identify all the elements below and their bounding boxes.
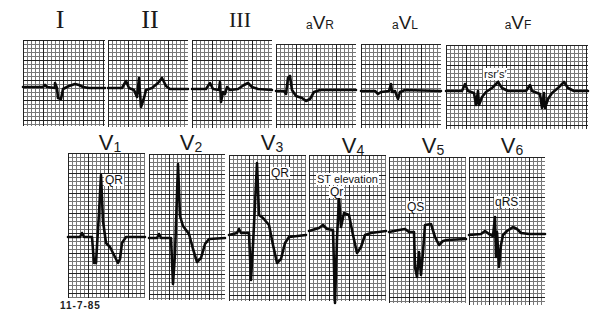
ecg-trace-aVR: [276, 44, 356, 128]
lead-title-V2: V2: [176, 130, 206, 156]
annotation-V6-qRS: qRS: [494, 196, 519, 208]
lead-title-aVL: aVL: [385, 12, 425, 34]
annotation-V4-ST-elevation: ST elevation: [316, 173, 379, 185]
ecg-panel-aVL: [361, 44, 441, 128]
ecg-panel-II: [108, 40, 188, 127]
ecg-trace-I: [23, 40, 105, 126]
annotation-V4-Qr: Qr: [329, 186, 344, 198]
annotation-V5-QS: QS: [406, 201, 425, 213]
ecg-trace-V2: [149, 154, 225, 300]
ecg-trace-V5: [389, 157, 466, 303]
ecg-panel-aVF: [446, 45, 588, 129]
ecg-trace-III: [192, 40, 272, 128]
lead-title-V5: V5: [418, 133, 448, 159]
annotation-rsr-s: rsr′s′: [483, 68, 507, 80]
ecg-panel-aVR: [276, 44, 356, 128]
date-label: 11-7-85: [60, 300, 101, 311]
ecg-trace-V3: [229, 155, 306, 301]
lead-title-III: III: [215, 7, 265, 33]
ecg-panel-V2: [149, 154, 225, 300]
lead-title-I: I: [45, 5, 75, 35]
ecg-panel-III: [192, 40, 272, 128]
ecg-trace-V6: [469, 157, 545, 305]
ecg-panel-V5: [389, 157, 466, 303]
annotation-V1-QR: QR: [104, 174, 124, 186]
lead-title-II: II: [130, 5, 170, 35]
ecg-panel-V6: [469, 157, 545, 305]
annotation-V3-QR: QR: [270, 167, 290, 179]
lead-title-aVR: aVR: [300, 12, 340, 34]
lead-title-V3: V3: [257, 130, 287, 156]
ecg-panel-I: [23, 40, 105, 126]
ecg-trace-aVF: [446, 45, 588, 129]
lead-title-V6: V6: [497, 133, 527, 159]
ecg-trace-aVL: [361, 44, 441, 128]
ecg-panel-V3: [229, 155, 306, 301]
ecg-trace-II: [108, 40, 188, 127]
lead-title-aVF: aVF: [498, 12, 538, 34]
